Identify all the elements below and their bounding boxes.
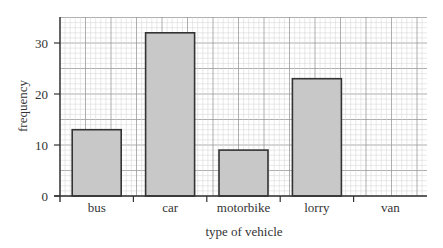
- bar-lorry: [292, 79, 341, 196]
- bar-bus: [72, 130, 121, 196]
- x-axis-label: type of vehicle: [205, 224, 282, 239]
- x-tick-label: bus: [88, 200, 106, 215]
- y-tick-label: 20: [35, 87, 48, 102]
- x-tick-label: van: [381, 200, 400, 215]
- bar-chart: 0102030buscarmotorbikelorryvan frequency…: [0, 0, 443, 248]
- y-tick-label: 0: [42, 189, 49, 204]
- x-tick-label: motorbike: [217, 200, 271, 215]
- bar-car: [146, 33, 195, 196]
- x-tick-label: lorry: [304, 200, 330, 215]
- y-tick-label: 30: [35, 36, 48, 51]
- x-tick-label: car: [162, 200, 179, 215]
- bar-motorbike: [219, 150, 268, 196]
- y-tick-label: 10: [35, 138, 48, 153]
- y-axis-label: frequency: [15, 80, 30, 132]
